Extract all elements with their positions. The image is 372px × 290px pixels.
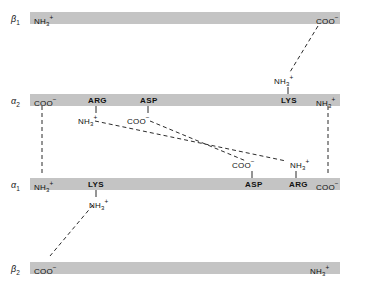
sidegroup-alpha2-asp: COO−: [127, 114, 150, 126]
bridge-alpha2-arg-to-alpha1-arg: [95, 121, 286, 161]
terminus-beta1-c-terminus: COO−: [316, 14, 339, 26]
chain-label-alpha1: α1: [11, 180, 20, 192]
residue-alpha2-arg: ARG: [88, 96, 107, 105]
bridge-alpha1-lys-to-beta2-coo: [50, 205, 93, 256]
chain-label-alpha2: α2: [11, 96, 20, 108]
chain-bar-beta1: [30, 12, 340, 24]
residue-alpha1-asp: ASP: [245, 180, 263, 189]
sidegroup-alpha2-lys: NH3+: [274, 74, 294, 87]
chain-label-beta1: β1: [11, 14, 20, 26]
sidegroup-alpha1-arg: NH3+: [290, 158, 310, 171]
chain-bars-group: [30, 12, 340, 274]
salt-bridge-lines-group: [42, 26, 328, 256]
sidegroup-alpha2-arg: NH3+: [78, 114, 98, 127]
residue-alpha1-arg: ARG: [289, 180, 308, 189]
chain-label-beta2: β2: [11, 264, 20, 276]
bridge-beta1-coo-to-alpha2-lys: [290, 26, 318, 72]
terminus-alpha2-c-terminus: NH3+: [316, 96, 336, 109]
terminus-alpha1-n-terminus: NH3+: [34, 180, 54, 193]
terminus-beta2-c-terminus: NH3+: [310, 264, 330, 277]
residue-alpha2-lys: LYS: [281, 96, 297, 105]
bridge-alpha2-asp-to-alpha1-asp: [150, 121, 246, 161]
sidegroup-alpha1-asp: COO−: [232, 158, 255, 170]
terminus-beta1-n-terminus: NH3+: [34, 14, 54, 27]
terminus-alpha1-c-terminus: COO−: [316, 180, 339, 192]
terminus-alpha2-n-terminus: COO−: [34, 96, 57, 108]
residue-alpha2-asp: ASP: [140, 96, 158, 105]
sidegroup-alpha1-lys: NH3+: [89, 198, 109, 211]
residue-alpha1-lys: LYS: [88, 180, 104, 189]
chain-bar-beta2: [30, 262, 340, 274]
salt-bridge-diagram: [0, 0, 372, 290]
terminus-beta2-n-terminus: COO−: [34, 264, 57, 276]
